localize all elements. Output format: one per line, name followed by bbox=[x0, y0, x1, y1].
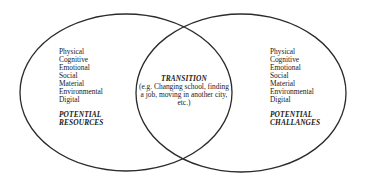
challenges-heading-line-2: CHALLANGES bbox=[270, 119, 320, 127]
challenge-item: Digital bbox=[270, 96, 320, 104]
challenges-list: Physical Cognitive Emotional Social Mate… bbox=[270, 48, 320, 127]
transition-label: TRANSITION (e.g. Changing school, findin… bbox=[134, 75, 234, 107]
resources-list: Physical Cognitive Emotional Social Mate… bbox=[59, 48, 103, 127]
transition-description-line-3: etc.) bbox=[134, 99, 234, 107]
resources-heading-line-2: RESOURCES bbox=[59, 119, 103, 127]
resource-item: Digital bbox=[59, 96, 103, 104]
